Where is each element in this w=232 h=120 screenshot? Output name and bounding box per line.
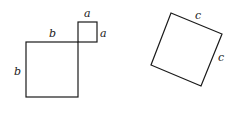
label-c-right: c (218, 51, 224, 64)
pythagorean-squares-diagram: b b a a c c (0, 0, 232, 120)
label-c-top: c (195, 9, 201, 22)
label-a-top: a (84, 7, 91, 20)
label-b-top: b (49, 27, 56, 40)
label-a-right: a (100, 27, 107, 40)
big-square-b (26, 42, 78, 97)
label-b-left: b (14, 65, 21, 78)
right-figure: c c (151, 9, 224, 86)
tilted-square-c (151, 13, 222, 86)
small-square-a (78, 22, 97, 42)
left-figure: b b a a (14, 7, 107, 97)
